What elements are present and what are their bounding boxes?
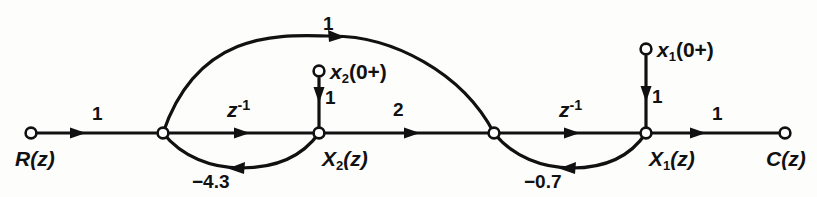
node-label-x2-base: X bbox=[322, 147, 336, 170]
gain-label-feedback-x2: −4.3 bbox=[192, 172, 230, 191]
gain-z-base-1: z bbox=[227, 98, 238, 121]
gain-label-j1-to-x2: z-1 bbox=[227, 99, 250, 120]
node-label-x1: X1(z) bbox=[649, 148, 695, 169]
node-label-r: R(z) bbox=[15, 148, 55, 169]
gain-z-exp-1: -1 bbox=[238, 97, 251, 113]
node-label-x2-init: x2(0+) bbox=[330, 61, 387, 82]
gain-label-j2-to-x1: z-1 bbox=[559, 99, 582, 120]
node-x1-init[interactable] bbox=[641, 44, 652, 55]
gain-label-x1-to-c: 1 bbox=[712, 104, 723, 123]
edge-j1-to-j2-arc-top bbox=[163, 36, 494, 133]
node-label-x1-init-base: x bbox=[657, 38, 669, 61]
node-label-x2-arg: (z) bbox=[343, 147, 368, 170]
gain-label-x1init-branch: 1 bbox=[652, 87, 663, 106]
node-label-x1-base: X bbox=[649, 147, 663, 170]
arrowhead-x2init-to-x2 bbox=[314, 87, 325, 103]
node-x2-init[interactable] bbox=[314, 66, 325, 77]
arrowhead-x1init-to-x1 bbox=[641, 86, 652, 102]
node-label-x2-init-arg: (0+) bbox=[349, 60, 387, 83]
arrowhead-x2-to-j2 bbox=[404, 128, 420, 139]
edge-x1-to-j2-arc-bottom bbox=[494, 133, 646, 168]
arrowhead-r-to-j1 bbox=[70, 128, 86, 139]
node-c[interactable] bbox=[780, 128, 791, 139]
arrowhead-x2-to-j1-arc-bottom bbox=[228, 162, 245, 174]
signal-flow-graph-figure: 1 z-1 2 z-1 1 1 −4.3 −0.7 1 1 R(z) X2(z)… bbox=[0, 0, 817, 197]
node-j2[interactable] bbox=[489, 128, 500, 139]
node-label-x2-init-base: x bbox=[330, 60, 342, 83]
gain-label-x2-to-j2: 2 bbox=[393, 100, 404, 119]
node-j1[interactable] bbox=[158, 128, 169, 139]
edge-x2-to-j1-arc-bottom bbox=[163, 133, 319, 168]
node-label-x1-init-arg: (0+) bbox=[676, 38, 714, 61]
arrowhead-x1-to-j2-arc-bottom bbox=[559, 162, 576, 174]
node-label-x2-init-sub: 2 bbox=[342, 71, 349, 86]
node-label-c: C(z) bbox=[766, 148, 806, 169]
gain-z-exp-2: -1 bbox=[570, 97, 583, 113]
node-label-x1-init-sub: 1 bbox=[669, 49, 676, 64]
node-label-x2: X2(z) bbox=[322, 148, 368, 169]
gain-label-feedback-x1: −0.7 bbox=[524, 172, 562, 191]
arrowhead-j2-to-x1 bbox=[564, 128, 580, 139]
node-r[interactable] bbox=[26, 128, 37, 139]
node-label-x1-init: x1(0+) bbox=[657, 39, 714, 60]
node-label-x1-arg: (z) bbox=[670, 147, 695, 170]
gain-label-x2init-branch: 1 bbox=[325, 88, 336, 107]
gain-label-r-to-j1: 1 bbox=[92, 104, 103, 123]
node-x2[interactable] bbox=[314, 128, 325, 139]
gain-label-top-arc: 1 bbox=[323, 14, 334, 33]
arrowhead-j1-to-x2 bbox=[234, 128, 250, 139]
gain-z-base-2: z bbox=[559, 98, 570, 121]
node-x1[interactable] bbox=[641, 128, 652, 139]
arrowhead-x1-to-c bbox=[690, 128, 706, 139]
